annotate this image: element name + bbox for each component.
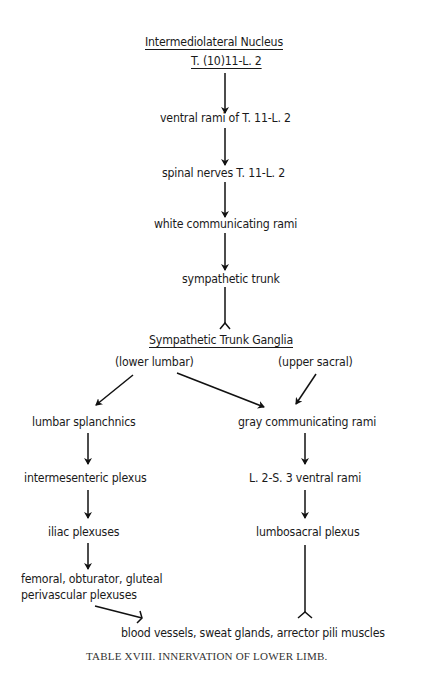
node-sympathetic-trunk: sympathetic trunk bbox=[182, 271, 280, 286]
node-intermesenteric-plexus: intermesenteric plexus bbox=[24, 470, 147, 485]
node-ventral-rami: ventral rami of T. 11-L. 2 bbox=[160, 110, 291, 125]
figure-caption: TABLE XVIII. INNERVATION OF LOWER LIMB. bbox=[86, 650, 327, 662]
node-sympathetic-trunk-ganglia: Sympathetic Trunk Ganglia bbox=[149, 332, 293, 347]
node-spinal-nerves: spinal nerves T. 11-L. 2 bbox=[162, 165, 285, 180]
node-gray-communicating-rami: gray communicating rami bbox=[238, 414, 376, 429]
node-target-effectors: blood vessels, sweat glands, arrector pi… bbox=[121, 625, 385, 640]
node-iliac-plexuses: iliac plexuses bbox=[48, 524, 119, 539]
node-perivascular-plexuses: perivascular plexuses bbox=[21, 587, 137, 602]
subtitle-segments: T. (10)11-L. 2 bbox=[191, 53, 262, 68]
node-ventral-rami-l2-s3: L. 2-S. 3 ventral rami bbox=[249, 470, 361, 485]
label-lower-lumbar: (lower lumbar) bbox=[115, 354, 194, 369]
node-femoral-obturator-gluteal: femoral, obturator, gluteal bbox=[21, 571, 162, 586]
node-lumbosacral-plexus: lumbosacral plexus bbox=[256, 524, 359, 539]
node-lumbar-splanchnics: lumbar splanchnics bbox=[32, 414, 136, 429]
node-white-communicating-rami: white communicating rami bbox=[154, 216, 297, 231]
label-upper-sacral: (upper sacral) bbox=[278, 354, 353, 369]
title-intermediolateral-nucleus: Intermediolateral Nucleus bbox=[145, 34, 283, 49]
